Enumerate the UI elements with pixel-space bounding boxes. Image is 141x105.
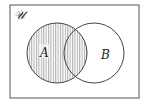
set-a-circle [27,23,87,83]
venn-diagram: 𝒰 A B [0,0,141,105]
set-b-label: B [100,48,110,62]
set-a-label: A [39,46,49,60]
